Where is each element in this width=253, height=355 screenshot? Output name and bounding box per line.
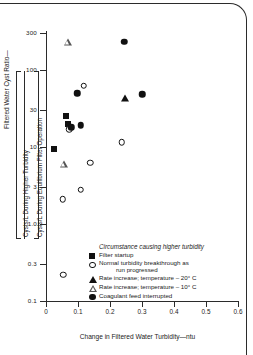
y-tick-label: 1.0 [0, 221, 37, 227]
data-point [118, 139, 125, 146]
y-tick-label: 3 [0, 184, 37, 190]
data-point [77, 122, 84, 129]
data-point [121, 39, 128, 46]
marker-open-circle [81, 83, 88, 90]
legend-item: Rate increase; temperature – 20° C [88, 275, 248, 283]
marker-filled-circle [68, 124, 75, 131]
marker-filled-triangle [121, 95, 129, 102]
data-point [59, 196, 66, 203]
x-tick [206, 301, 207, 307]
bracket-right-bottom [34, 238, 39, 239]
x-axis-title-text: Change in Filtered Water Turbidity—ntu [58, 333, 196, 340]
y-tick-label: 10 [0, 144, 37, 150]
x-tick [78, 301, 79, 307]
legend-title: Circumstance causing higher turbidity [99, 243, 248, 250]
x-tick-label: 0.5 [191, 309, 221, 315]
y-tick-label: 0.1 [0, 298, 37, 304]
legend-item: Rate increase; temperature – 10° C [88, 284, 248, 292]
marker-open-circle [118, 139, 125, 146]
bracket-left-bottom [16, 238, 21, 239]
legend-marker [89, 285, 97, 292]
chart-legend: Circumstance causing higher turbidity Fi… [88, 243, 248, 301]
legend-marker [89, 253, 95, 259]
data-point [68, 124, 75, 131]
marker-filled-circle [89, 294, 96, 301]
y-axis-outer-label: Filtered Water Cyst Ratio— [3, 50, 10, 129]
y-tick-label: 300 [0, 30, 37, 36]
marker-filled-square [51, 146, 57, 152]
x-tick-label: 0.2 [95, 309, 125, 315]
marker-filled-square [89, 253, 95, 259]
marker-filled-circle [139, 91, 146, 98]
y-axis-fraction: Cysts/L During Higher Turbidity Cysts/L … [11, 69, 39, 241]
legend-marker [89, 276, 97, 283]
y-tick-label: 100 [0, 67, 37, 73]
data-point [139, 91, 146, 98]
data-point [121, 95, 129, 102]
y-tick-label: 30 [0, 107, 37, 113]
marker-open-circle [60, 271, 67, 278]
data-point [74, 90, 81, 97]
x-tick-label: 0 [31, 309, 61, 315]
bracket-left [16, 71, 17, 239]
x-tick-label: 0.3 [127, 309, 157, 315]
marker-filled-circle [121, 39, 128, 46]
data-point [60, 271, 67, 278]
marker-open-triangle [60, 160, 68, 167]
data-point [51, 146, 57, 152]
legend-item: Coagulant feed interrupted [88, 293, 248, 301]
fraction-denominator: Cysts/L During Equilibrium Filter Operat… [36, 118, 43, 237]
marker-open-circle [59, 196, 66, 203]
marker-filled-triangle [89, 276, 97, 283]
y-tick-label: 0.3 [0, 261, 37, 267]
x-tick [110, 301, 111, 307]
data-point [81, 83, 88, 90]
marker-open-triangle [64, 38, 72, 45]
x-tick-label: 0.1 [63, 309, 93, 315]
x-tick [174, 301, 175, 307]
marker-filled-square [63, 113, 69, 119]
marker-open-circle [77, 186, 84, 193]
data-point [87, 160, 94, 167]
x-tick-label: 0.4 [159, 309, 189, 315]
legend-marker [89, 294, 96, 301]
data-point [77, 186, 84, 193]
x-axis-title: Change in Filtered Water Turbidity—ntu [0, 333, 253, 340]
x-tick [238, 301, 239, 307]
x-tick-label: 0.6 [223, 309, 253, 315]
legend-item-label: Coagulant feed interrupted [99, 292, 172, 299]
marker-open-circle [87, 160, 94, 167]
legend-item-label: Filter startup [99, 251, 133, 258]
marker-open-triangle [89, 285, 97, 292]
x-tick [142, 301, 143, 307]
legend-marker [89, 262, 96, 269]
x-tick [46, 301, 47, 307]
marker-filled-circle [77, 122, 84, 129]
marker-open-circle [89, 262, 96, 269]
legend-item-label: Rate increase; temperature – 20° C [99, 274, 196, 281]
legend-item: Filter startup [88, 252, 248, 260]
data-point [63, 113, 69, 119]
marker-filled-circle [74, 90, 81, 97]
legend-item-label: Normal turbidity breakthrough as [99, 259, 189, 266]
data-point [60, 160, 68, 167]
data-point [64, 38, 72, 45]
legend-item: Normal turbidity breakthrough asrun prog… [88, 260, 248, 274]
legend-item-label: Rate increase; temperature – 10° C [99, 283, 196, 290]
